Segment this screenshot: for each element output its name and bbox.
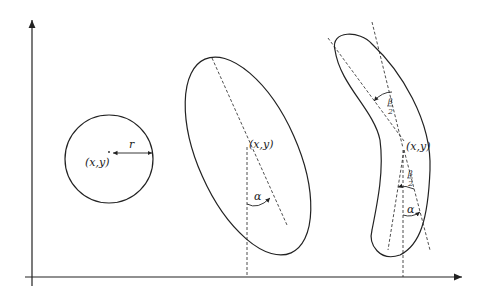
radius-label: r <box>129 138 135 151</box>
ellipse-angle-label: α <box>254 190 262 203</box>
diagram-canvas: r (x,y) (x,y) α β 2 (x,y) β 2 α <box>0 0 478 300</box>
curved-angle-label: α <box>407 203 415 216</box>
circle-center-label: (x,y) <box>85 156 110 169</box>
curved-center-label: (x,y) <box>406 140 431 153</box>
curved-shape: β 2 (x,y) β 2 α <box>328 22 431 277</box>
ellipse-shape: (x,y) α <box>159 39 337 277</box>
beta-bottom-den: 2 <box>407 179 413 188</box>
beta-top-num: β <box>387 97 393 106</box>
ellipse-center-label: (x,y) <box>249 138 274 151</box>
beta-top-den: 2 <box>387 107 393 116</box>
axes <box>25 20 462 286</box>
circle-shape: r (x,y) <box>65 115 153 203</box>
beta-bottom-num: β <box>407 169 413 178</box>
